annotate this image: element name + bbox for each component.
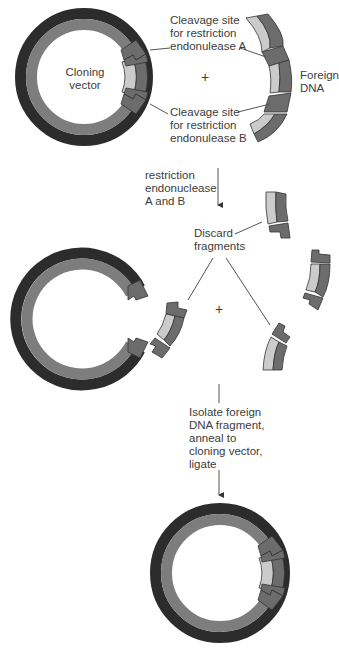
label-foreign-dna: Foreign DNA [300, 69, 339, 95]
label-line: DNA [300, 82, 339, 95]
label-line: fragments [194, 240, 245, 253]
label-line: Isolate foreign [189, 406, 264, 419]
label-line: Cloning [60, 66, 110, 79]
pointer-line-a [150, 48, 170, 50]
discard-line-left [188, 258, 213, 300]
label-line: endonulease A [170, 40, 246, 53]
label-step2: Isolate foreign DNA fragment, anneal to … [189, 406, 264, 471]
label-cloning-vector: Cloning vector [60, 66, 110, 92]
label-line: restriction [145, 169, 217, 182]
label-line: Foreign [300, 69, 339, 82]
label-line: Cleavage site [170, 106, 247, 119]
label-line: cloning vector, [189, 445, 264, 458]
label-line: endonuclease [145, 182, 217, 195]
pointer-line-b [150, 104, 168, 114]
label-line: for restriction [170, 119, 247, 132]
label-line: Cleavage site [170, 14, 246, 27]
discarded-fragment-3 [263, 323, 290, 370]
label-step1: restriction endonuclease A and B [145, 169, 217, 208]
plus-sign-mid: + [215, 303, 223, 316]
recombinant-plasmid [156, 509, 286, 638]
label-line: for restriction [170, 27, 246, 40]
plus-sign-top: + [201, 71, 209, 84]
label-discard-fragments: Discard fragments [194, 227, 245, 253]
label-cleavage-a: Cleavage site for restriction endonuleas… [170, 14, 246, 53]
label-line: ligate [189, 458, 264, 471]
isolated-foreign-fragment [150, 302, 187, 358]
discarded-fragment-2 [303, 250, 330, 310]
label-line: endonulease B [170, 132, 247, 145]
label-line: vector [60, 79, 110, 92]
label-line: anneal to [189, 432, 264, 445]
opened-vector [16, 253, 148, 385]
label-cleavage-b: Cleavage site for restriction endonuleas… [170, 106, 247, 145]
discarded-fragment-1 [266, 192, 290, 238]
foreign-dna-fragment [246, 14, 292, 142]
label-line: Discard [194, 227, 245, 240]
label-line: DNA fragment, [189, 419, 264, 432]
discard-line-right [226, 258, 270, 325]
label-line: A and B [145, 195, 217, 208]
